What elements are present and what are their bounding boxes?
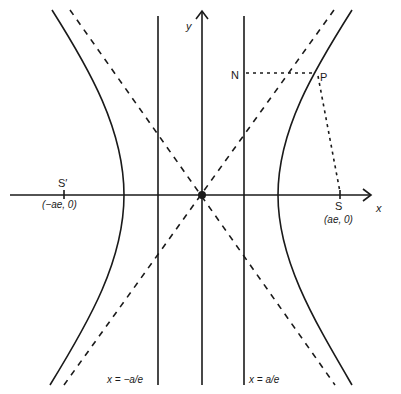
- focus-s-prime-label: S′: [58, 177, 67, 189]
- focus-s-coord: (ae, 0): [324, 214, 353, 225]
- point-n-label: N: [231, 69, 239, 81]
- directrix-right-label: x = a/e: [248, 374, 280, 385]
- point-p-label: P: [320, 71, 327, 83]
- focus-s-prime-coord: (−ae, 0): [42, 199, 77, 210]
- x-axis-label: x: [375, 202, 382, 214]
- hyperbola-left-branch: [50, 10, 124, 385]
- focus-s-label: S: [335, 200, 342, 212]
- hyperbola-figure: y x N P S′ (−ae, 0) S (ae, 0) x = −a/e x…: [0, 0, 401, 394]
- origin-point: [198, 191, 206, 199]
- y-axis-label: y: [185, 20, 193, 32]
- hyperbola-right-branch: [278, 10, 352, 385]
- line-p-to-s: [318, 76, 340, 192]
- directrix-left-label: x = −a/e: [106, 374, 144, 385]
